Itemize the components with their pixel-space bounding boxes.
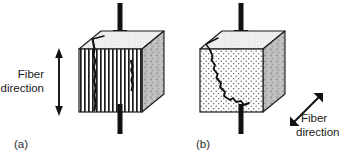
figure-container: Fiber direction (a) — [0, 0, 349, 163]
panel-a: Fiber direction (a) — [1, 3, 164, 150]
panel-a-fiber-direction-label-line1: Fiber — [18, 68, 44, 80]
panel-b-fiber-direction-label-line2: direction — [296, 126, 339, 138]
panel-a-fiber-direction-arrow — [55, 48, 63, 116]
panel-b-load-arrow-bottom — [239, 104, 244, 134]
panel-b-fiber-direction-label-line1: Fiber — [301, 112, 327, 124]
panel-b-caption: (b) — [196, 138, 210, 150]
panel-b: Fiber direction (b) — [196, 3, 339, 150]
panel-b-cube-front-face — [200, 49, 263, 112]
panel-a-fiber-direction-label-line2: direction — [1, 82, 44, 94]
panel-a-caption: (a) — [14, 138, 28, 150]
panel-a-load-arrow-bottom — [118, 104, 123, 134]
composite-failure-diagram: Fiber direction (a) — [0, 0, 349, 163]
